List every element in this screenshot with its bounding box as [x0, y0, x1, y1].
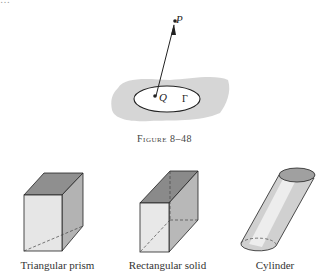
figure-caption: Figure 8–48: [0, 133, 329, 144]
cylinder-drawing: [241, 168, 315, 251]
point-q-label: Q: [159, 91, 167, 103]
rectangular-solid-label: Rectangular solid: [115, 259, 220, 271]
cylinder-label: Cylinder: [235, 259, 315, 271]
region-gamma-label: Γ: [182, 93, 188, 104]
triangular-prism-label: Triangular prism: [5, 259, 110, 271]
figure-8-48-diagram: [111, 19, 229, 121]
point-p-label: P: [176, 13, 183, 25]
rectangular-solid-drawing: [140, 171, 198, 252]
triangular-prism-drawing: [24, 173, 83, 251]
